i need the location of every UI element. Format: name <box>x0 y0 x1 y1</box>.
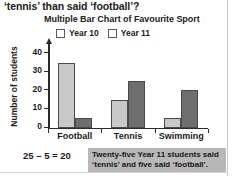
legend-swatch-year-11 <box>108 29 117 38</box>
y-tick-10: 10 <box>44 108 48 109</box>
y-tick-30: 30 <box>44 71 48 72</box>
bar-swimming-year-11 <box>181 90 198 127</box>
bar-tennis-year-10 <box>111 100 128 128</box>
x-tick-1 <box>101 129 102 133</box>
callout-box: Twenty-five Year 11 students said ‘tenni… <box>88 148 226 172</box>
worksheet-page: ‘tennis’ than said ‘football’? Multiple … <box>0 0 234 176</box>
chart-title: Multiple Bar Chart of Favourite Sport <box>44 14 200 24</box>
x-axis-label-football: Football <box>57 131 92 141</box>
legend-swatch-year-10 <box>56 29 65 38</box>
legend-label-year-10: Year 10 <box>69 28 99 38</box>
legend-entry-year-10: Year 10 <box>56 28 99 38</box>
calculation-text: 25 – 5 = 20 <box>23 150 71 161</box>
y-axis-line <box>48 44 50 129</box>
page-right-rule <box>227 0 228 176</box>
question-text: ‘tennis’ than said ‘football’? <box>4 0 139 12</box>
bar-swimming-year-10 <box>164 118 181 127</box>
legend-entry-year-11: Year 11 <box>108 28 150 38</box>
bar-tennis-year-11 <box>128 81 145 127</box>
x-tick-3 <box>208 129 209 133</box>
y-tick-label-20: 20 <box>33 84 42 94</box>
legend-label-year-11: Year 11 <box>121 28 150 38</box>
x-axis-label-tennis: Tennis <box>114 131 142 141</box>
y-tick-label-10: 10 <box>33 102 42 112</box>
chart-plot-area: 010203040 <box>48 44 208 129</box>
bar-football-year-10 <box>58 63 75 128</box>
callout-line-1: Twenty-five Year 11 students said <box>92 150 223 160</box>
y-tick-0: 0 <box>44 127 48 128</box>
y-axis-title: Number of students <box>8 44 20 129</box>
callout-line-2: ‘tennis’ and five said ‘football’. <box>92 160 223 170</box>
x-tick-2 <box>155 129 156 133</box>
y-tick-40: 40 <box>44 52 48 53</box>
y-tick-label-40: 40 <box>33 47 42 57</box>
y-tick-20: 20 <box>44 89 48 90</box>
x-axis-line <box>48 128 208 130</box>
y-tick-label-30: 30 <box>33 65 42 75</box>
y-tick-label-0: 0 <box>37 121 42 131</box>
bar-football-year-11 <box>75 118 92 127</box>
page-bottom-rule <box>0 172 228 173</box>
x-axis-label-swimming: Swimming <box>159 131 204 141</box>
chart-legend: Year 10 Year 11 <box>56 28 150 38</box>
x-tick-0 <box>48 129 49 133</box>
